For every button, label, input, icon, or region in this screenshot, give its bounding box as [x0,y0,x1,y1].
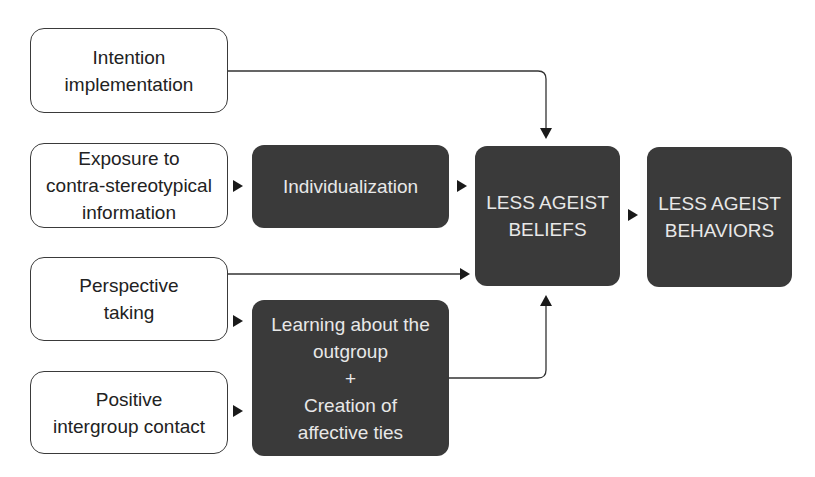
edge-intention-beliefs [228,71,546,128]
edge-learning-beliefs [449,306,546,378]
node-label: BELIEFS [508,216,586,243]
node-label: taking [104,299,155,326]
node-label: LESS AGEIST [486,189,609,216]
node-individualization: Individualization [252,145,449,228]
node-label: intergroup contact [53,413,205,440]
node-positive-intergroup-contact: Positive intergroup contact [30,371,228,454]
arrowhead-right-icon [233,180,243,192]
node-label: LESS AGEIST [658,190,781,217]
node-label: Creation of [304,392,397,419]
node-label: Exposure to [78,145,179,172]
node-intention-implementation: Intention implementation [30,28,228,113]
node-exposure-contra-stereotypical: Exposure to contra-stereotypical informa… [30,143,228,228]
node-label: + [345,365,356,392]
node-label: information [82,199,176,226]
node-perspective-taking: Perspective taking [30,257,228,341]
arrowhead-right-icon [233,405,243,417]
arrowhead-right-icon [457,180,467,192]
node-label: Positive [96,386,163,413]
arrowhead-right-icon [628,209,638,221]
node-learning-affective-ties: Learning about the outgroup + Creation o… [252,300,449,456]
node-less-ageist-beliefs: LESS AGEIST BELIEFS [475,146,620,286]
node-label: Perspective [79,272,178,299]
arrowhead-right-icon [460,268,470,280]
arrowhead-right-icon [233,315,243,327]
arrowhead-down-icon [540,128,552,139]
node-label: BEHAVIORS [665,217,774,244]
node-label: Individualization [283,173,418,200]
node-label: implementation [65,71,194,98]
node-label: contra-stereotypical [46,172,212,199]
node-label: outgroup [313,338,388,365]
node-label: affective ties [298,419,403,446]
node-label: Learning about the [271,311,429,338]
arrowhead-up-icon [540,295,552,306]
node-label: Intention [93,44,166,71]
node-less-ageist-behaviors: LESS AGEIST BEHAVIORS [647,147,792,287]
